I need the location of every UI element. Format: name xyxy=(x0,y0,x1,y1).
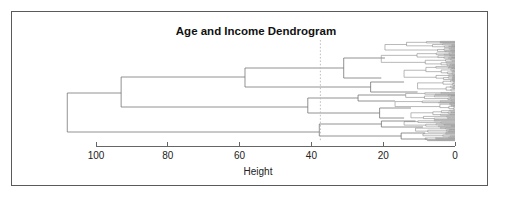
x-axis xyxy=(96,142,455,146)
dendrogram-figure: Age and Income Dendrogram 100806040200 H… xyxy=(0,0,508,201)
x-tick-80: 80 xyxy=(162,150,174,161)
x-tick-100: 100 xyxy=(88,150,105,161)
x-axis-label: Height xyxy=(244,166,273,177)
x-tick-0: 0 xyxy=(452,150,458,161)
x-tick-40: 40 xyxy=(306,150,318,161)
x-tick-20: 20 xyxy=(378,150,390,161)
dendrogram-plot: Age and Income Dendrogram 100806040200 H… xyxy=(0,0,508,201)
dendrogram-branches xyxy=(67,41,455,140)
page-title: Age and Income Dendrogram xyxy=(176,25,336,37)
x-tick-60: 60 xyxy=(234,150,246,161)
x-axis-tick-labels: 100806040200 xyxy=(88,150,459,161)
